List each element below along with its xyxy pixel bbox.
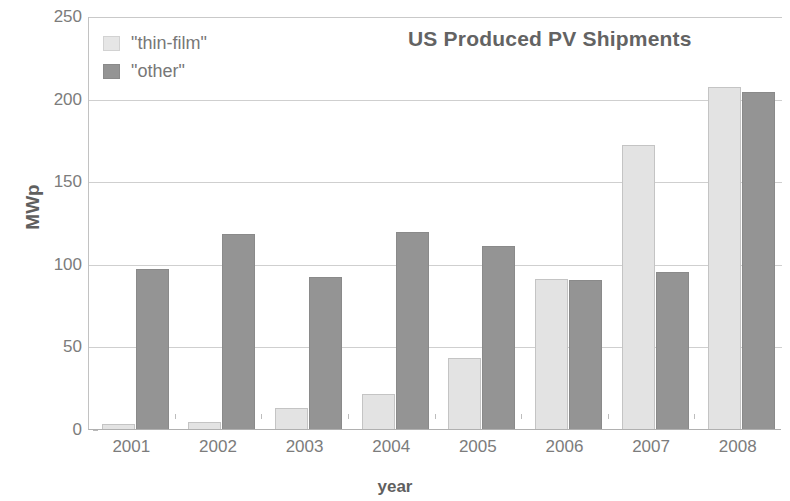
bar-2008-other [742, 92, 775, 429]
bar-2005-thin-film [448, 358, 481, 429]
bar-2005-other [482, 246, 515, 429]
x-axis-title: year [0, 477, 790, 497]
x-tick-label-2003: 2003 [265, 437, 345, 457]
y-tick-label: 100 [20, 256, 82, 273]
x-tick-mark [694, 414, 695, 419]
bar-2008-thin-film [708, 87, 741, 429]
y-tick-mark [93, 430, 98, 431]
legend-swatch-thin [103, 36, 120, 51]
bar-2006-other [569, 280, 602, 429]
x-tick-label-2008: 2008 [698, 437, 778, 457]
bar-2004-other [396, 232, 429, 429]
bar-group [448, 16, 515, 429]
bar-group [622, 16, 689, 429]
x-tick-label-2005: 2005 [438, 437, 518, 457]
x-tick-label-2007: 2007 [611, 437, 691, 457]
bar-2001-other [136, 269, 169, 429]
bar-2004-thin-film [362, 394, 395, 429]
legend-label: "other" [131, 61, 185, 82]
x-tick-mark [261, 414, 262, 419]
chart-legend: "thin-film""other" [103, 31, 293, 87]
chart-title: US Produced PV Shipments [408, 27, 692, 51]
x-tick-mark [435, 414, 436, 419]
x-tick-mark [521, 414, 522, 419]
y-tick-label: 250 [20, 8, 82, 25]
y-tick-label: 150 [20, 173, 82, 190]
y-tick-label: 200 [20, 91, 82, 108]
y-tick-label: 0 [20, 421, 82, 438]
legend-item: "other" [103, 59, 293, 83]
bar-group [535, 16, 602, 429]
bar-chart: MWp 050100150200250 20012002200320042005… [0, 0, 790, 501]
y-tick-label: 50 [20, 338, 82, 355]
bar-group [362, 16, 429, 429]
x-tick-label-2004: 2004 [351, 437, 431, 457]
legend-item: "thin-film" [103, 31, 293, 55]
bar-2007-other [656, 272, 689, 429]
bar-group [708, 16, 775, 429]
legend-label: "thin-film" [131, 33, 207, 54]
x-tick-mark [348, 414, 349, 419]
bar-2006-thin-film [535, 279, 568, 429]
x-tick-label-2002: 2002 [178, 437, 258, 457]
y-axis-ticks: 050100150200250 [10, 0, 82, 440]
x-tick-mark [608, 414, 609, 419]
bar-2007-thin-film [622, 145, 655, 429]
bar-2002-thin-film [188, 422, 221, 429]
bar-2002-other [222, 234, 255, 429]
bar-2001-thin-film [102, 424, 135, 429]
x-tick-mark [175, 414, 176, 419]
x-tick-label-2006: 2006 [524, 437, 604, 457]
bar-2003-thin-film [275, 408, 308, 429]
bar-2003-other [309, 277, 342, 429]
legend-swatch-other [103, 64, 120, 79]
x-tick-label-2001: 2001 [91, 437, 171, 457]
